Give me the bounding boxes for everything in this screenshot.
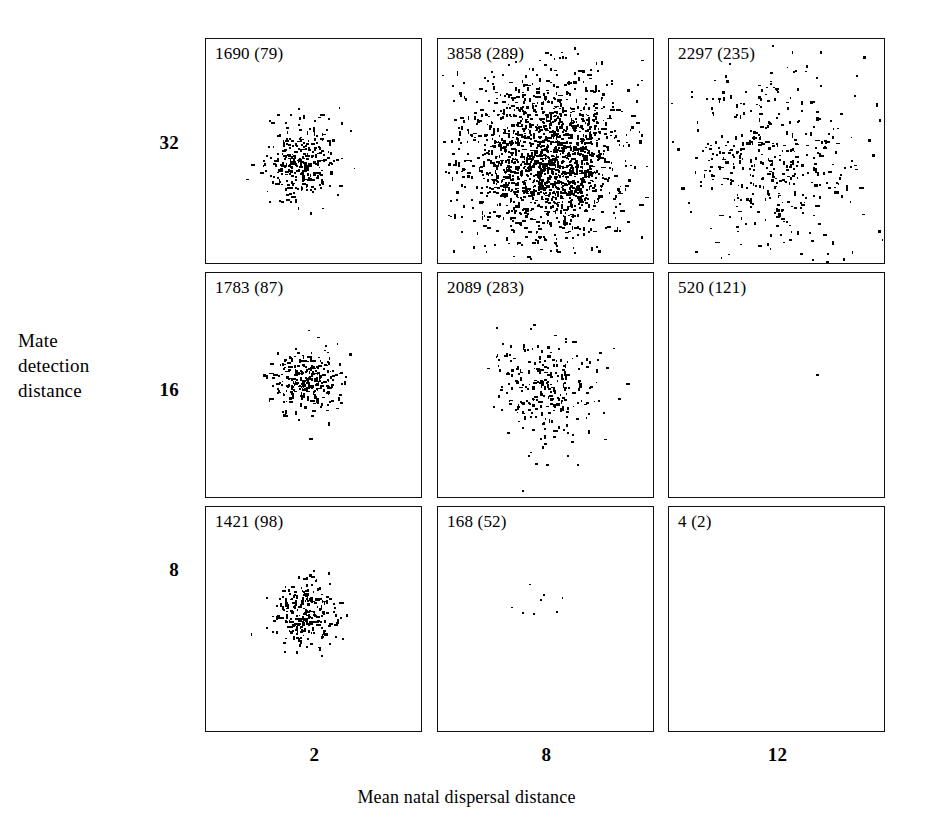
panel-count-label: 2089 (283): [447, 278, 524, 298]
column-tick-label-2: 2: [205, 744, 424, 766]
row-tick-label-8: 8: [137, 559, 179, 581]
scatter-panel-r0-c0: 1690 (79): [205, 38, 422, 264]
scatter-panel-r1-c1: 2089 (283): [437, 272, 654, 498]
panel-grid: 1690 (79)3858 (289)2297 (235)1783 (87)20…: [205, 38, 887, 733]
panel-count-label: 2297 (235): [678, 44, 755, 64]
scatter-lattice-figure: Mate detection distance 32 16 8 1690 (79…: [0, 0, 933, 823]
panel-count-label: 4 (2): [678, 512, 712, 532]
scatter-points: [206, 507, 421, 731]
scatter-panel-r0-c2: 2297 (235): [668, 38, 885, 264]
scatter-panel-r2-c0: 1421 (98): [205, 506, 422, 732]
scatter-panel-r2-c2: 4 (2): [668, 506, 885, 732]
y-axis-title-line-2: detection: [18, 353, 138, 378]
scatter-points: [438, 507, 653, 731]
scatter-points: [669, 273, 884, 497]
panel-count-label: 1421 (98): [215, 512, 283, 532]
panel-count-label: 1783 (87): [215, 278, 283, 298]
x-axis-title: Mean natal dispersal distance: [0, 787, 933, 808]
column-tick-label-12: 12: [668, 744, 887, 766]
panel-count-label: 520 (121): [678, 278, 746, 298]
y-axis-title-line-3: distance: [18, 378, 138, 403]
panel-count-label: 1690 (79): [215, 44, 283, 64]
scatter-points: [206, 273, 421, 497]
y-axis-title-line-1: Mate: [18, 328, 138, 353]
column-tick-label-8: 8: [437, 744, 656, 766]
panel-count-label: 3858 (289): [447, 44, 524, 64]
scatter-panel-r0-c1: 3858 (289): [437, 38, 654, 264]
scatter-panel-r1-c2: 520 (121): [668, 272, 885, 498]
scatter-points: [669, 39, 884, 263]
scatter-panel-r1-c0: 1783 (87): [205, 272, 422, 498]
scatter-points: [438, 273, 653, 497]
row-tick-label-32: 32: [137, 132, 179, 154]
scatter-panel-r2-c1: 168 (52): [437, 506, 654, 732]
panel-count-label: 168 (52): [447, 512, 507, 532]
scatter-points: [206, 39, 421, 263]
row-tick-label-16: 16: [137, 379, 179, 401]
scatter-points: [438, 39, 653, 263]
scatter-points: [669, 507, 884, 731]
y-axis-title: Mate detection distance: [18, 328, 138, 403]
